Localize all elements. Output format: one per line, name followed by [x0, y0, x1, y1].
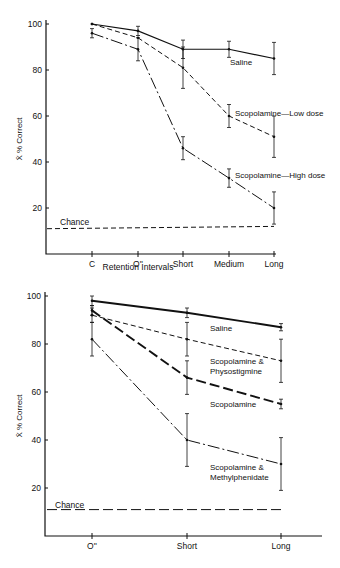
x-axis-label: Retention Intervals — [103, 262, 174, 272]
y-tick-label: 80 — [32, 339, 42, 349]
chance-label: Chance — [55, 500, 85, 510]
series-saline: Saline — [90, 296, 283, 333]
y-tick-label: 60 — [32, 387, 42, 397]
y-tick-label: 60 — [33, 111, 43, 121]
series-scopolamine-high-dose: Scopolamine—High dose — [90, 29, 326, 225]
y-tick-label: 80 — [33, 65, 43, 75]
series-scopolamine-physostigmine: Scopolamine &Physostigmine — [90, 308, 283, 382]
y-axis-label: X̄ % Correct — [15, 117, 24, 161]
x-tick-label: Medium — [214, 259, 244, 269]
series-line — [92, 301, 281, 327]
y-tick-label: 40 — [33, 157, 43, 167]
x-tick-label: Short — [173, 259, 194, 269]
series-label: Physostigmine — [210, 367, 263, 376]
y-tick-label: 40 — [32, 435, 42, 445]
series-label: Methylphenidate — [210, 473, 269, 482]
series-label: Scopolamine & — [210, 357, 264, 366]
series-label: Saline — [210, 324, 233, 333]
series-label: Scopolamine—Low dose — [235, 109, 324, 118]
x-tick-label: Short — [177, 541, 198, 551]
y-tick-label: 100 — [28, 19, 42, 29]
x-tick-label: C — [89, 259, 95, 269]
data-point — [91, 23, 94, 26]
x-tick-label: Long — [265, 259, 284, 269]
series-scopolamine-low-dose: Scopolamine—Low dose — [91, 23, 324, 158]
y-tick-label: 100 — [27, 291, 41, 301]
y-tick-label: 20 — [33, 203, 43, 213]
chance-label: Chance — [60, 217, 90, 227]
chart-retention-drug-combinations: 20406080100X̄ % CorrectO''ShortLongChanc… — [15, 291, 322, 551]
series-label: Scopolamine—High dose — [235, 171, 326, 180]
axes — [45, 292, 322, 536]
chart-retention-scopolamine-dose: 20406080100X̄ % CorrectCO''ShortMediumLo… — [15, 19, 326, 272]
x-tick-label: O'' — [87, 541, 97, 551]
series-label: Scopolamine — [210, 400, 257, 409]
x-tick-label: Long — [272, 541, 291, 551]
y-axis-label: X̄ % Correct — [15, 394, 24, 438]
series-label: Saline — [230, 58, 253, 67]
figure: 20406080100X̄ % CorrectCO''ShortMediumLo… — [0, 0, 340, 568]
series-label: Scopolamine & — [210, 463, 264, 472]
y-tick-label: 20 — [32, 483, 42, 493]
